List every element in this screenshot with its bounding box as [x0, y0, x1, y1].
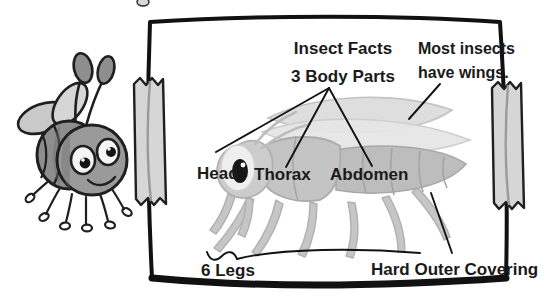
wings-note-line1: Most insects — [418, 40, 515, 57]
illustration-canvas: Insect Facts 3 Body Parts Most insects h… — [0, 0, 554, 302]
label-thorax: Thorax — [254, 165, 311, 184]
bee-eye-right — [97, 139, 119, 165]
bee-antenna-tip-right — [95, 54, 117, 85]
label-legs: 6 Legs — [201, 261, 255, 280]
wings-note-line2: have wings. — [418, 64, 509, 81]
tape-strip-right — [492, 82, 524, 209]
tape-strip-left — [134, 78, 166, 205]
label-hard-outer-covering: Hard Outer Covering — [371, 260, 538, 279]
bee-mascot — [14, 51, 133, 231]
poster-title: Insect Facts — [294, 39, 392, 58]
poster-subtitle: 3 Body Parts — [291, 67, 395, 86]
label-head: Head — [197, 164, 239, 183]
label-abdomen: Abdomen — [330, 165, 408, 184]
top-edge-artifact — [137, 0, 149, 6]
bee-antenna-tip-left — [71, 51, 95, 84]
bee-eye-left — [71, 146, 95, 174]
